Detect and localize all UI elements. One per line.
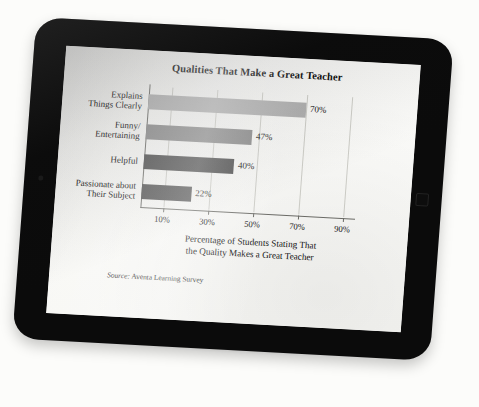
source-text: Aventa Learning Survey: [130, 272, 204, 285]
tablet-screen[interactable]: Qualities That Make a Great Teacher Expl…: [46, 46, 421, 333]
x-tick-mark: [208, 211, 209, 215]
x-tick-label: 30%: [199, 216, 215, 227]
bar-chart-figure: Qualities That Make a Great Teacher Expl…: [46, 46, 421, 333]
bar-value-label: 47%: [256, 131, 273, 142]
bar-value-label: 40%: [238, 160, 255, 171]
source-prefix: Source:: [107, 270, 130, 280]
x-tick-mark: [163, 208, 164, 212]
x-tick-label: 90%: [334, 224, 350, 235]
tablet-device: Qualities That Make a Great Teacher Expl…: [12, 17, 454, 361]
category-label: Helpful: [58, 151, 145, 166]
x-tick-label: 50%: [244, 219, 260, 230]
plot-area: ExplainsThings Clearly70%Funny/Entertain…: [140, 86, 363, 217]
bar-value-label: 70%: [309, 104, 326, 115]
category-label-line: Helpful: [58, 151, 139, 166]
bar[interactable]: [143, 154, 234, 174]
front-camera-icon: [38, 175, 43, 180]
x-tick-label: 70%: [289, 221, 305, 232]
source-note: Source: Aventa Learning Survey: [107, 270, 204, 284]
category-label: Passionate aboutTheir Subject: [55, 176, 142, 202]
home-button[interactable]: [415, 193, 429, 207]
x-axis-label: Percentage of Students Stating Thatthe Q…: [137, 231, 363, 266]
chart-title: Qualities That Make a Great Teacher: [65, 57, 420, 87]
bar[interactable]: [141, 184, 192, 202]
x-tick-mark: [343, 218, 344, 222]
category-label: Funny/Entertaining: [59, 116, 146, 142]
x-tick-mark: [253, 213, 254, 217]
x-tick-mark: [298, 216, 299, 220]
x-tick-label: 10%: [154, 214, 170, 225]
bar[interactable]: [146, 124, 253, 145]
bar-value-label: 22%: [195, 188, 212, 199]
bar[interactable]: [148, 94, 307, 117]
document-page: Qualities That Make a Great Teacher Expl…: [46, 46, 421, 333]
photo-scene: Qualities That Make a Great Teacher Expl…: [0, 0, 479, 407]
category-label: ExplainsThings Clearly: [62, 86, 149, 112]
